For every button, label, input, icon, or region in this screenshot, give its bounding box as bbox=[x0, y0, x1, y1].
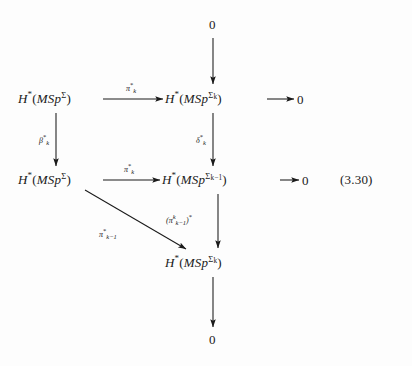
node-row2-right-msp: MSp bbox=[181, 172, 205, 187]
node-row1-right-H: H bbox=[165, 91, 175, 106]
node-row1-left-H: H bbox=[18, 91, 28, 106]
label-pi-star-k-minus-1-diagonal: π*k−1 bbox=[99, 228, 117, 241]
node-row2-right-sup-sub: k−1 bbox=[210, 174, 222, 182]
node-row3-center-sup-sub: k bbox=[213, 257, 217, 265]
node-row1-right-msp: MSp bbox=[184, 91, 208, 106]
label-pi-star-k-row2: π*k bbox=[124, 163, 134, 176]
equation-number: (3.30) bbox=[340, 172, 373, 188]
label-beta-star-k: β*k bbox=[39, 134, 49, 147]
label-pi-star-k-row2-sub: k bbox=[131, 168, 134, 175]
node-row2-right-sup: Σk−1 bbox=[205, 171, 222, 181]
node-row2-right-star: * bbox=[172, 170, 177, 180]
node-row2-right: H*(MSpΣk−1) bbox=[162, 172, 227, 186]
label-delta-star-k: δ*k bbox=[196, 134, 206, 147]
node-top-zero: 0 bbox=[209, 17, 216, 33]
node-row2-left-star: * bbox=[28, 170, 33, 180]
node-row3-center-star: * bbox=[175, 253, 180, 263]
node-row3-center-sup: Σk bbox=[208, 254, 217, 264]
node-row3-center-close: ) bbox=[217, 255, 222, 270]
label-pi-star-k-row1-sub: k bbox=[133, 87, 136, 94]
node-row2-right-zero: 0 bbox=[302, 173, 309, 189]
label-pi-pair-star: (πkk−1)* bbox=[166, 214, 192, 227]
node-row2-left-H: H bbox=[18, 172, 28, 187]
node-row1-right-sup-sub: k bbox=[213, 93, 217, 101]
node-row1-left: H*(MSpΣ) bbox=[18, 91, 71, 105]
node-row2-right-H: H bbox=[162, 172, 172, 187]
label-pi-pair-sub: k−1 bbox=[176, 219, 187, 226]
node-row1-right-close: ) bbox=[217, 91, 222, 106]
node-row3-center-H: H bbox=[165, 255, 175, 270]
label-delta-star-k-sub: k bbox=[203, 139, 206, 146]
label-pi-star-k-row1: π*k bbox=[126, 82, 136, 95]
node-row2-left-close: ) bbox=[66, 172, 71, 187]
label-pi-diag-sub: k−1 bbox=[106, 233, 117, 240]
node-bottom-zero: 0 bbox=[209, 332, 216, 348]
node-row1-left-msp: MSp bbox=[37, 91, 61, 106]
label-pi-pair-star: * bbox=[189, 213, 192, 220]
node-row1-right-sup: Σk bbox=[208, 90, 217, 100]
node-row1-left-close: ) bbox=[66, 91, 71, 106]
node-row1-right-star: * bbox=[175, 89, 180, 99]
node-row3-center-msp: MSp bbox=[184, 255, 208, 270]
commutative-diagram-figure: 0 H*(MSpΣ) H*(MSpΣk) 0 H*(MSpΣ) H*(MSpΣk… bbox=[0, 0, 412, 366]
node-row3-center: H*(MSpΣk) bbox=[165, 255, 222, 269]
node-row1-right: H*(MSpΣk) bbox=[165, 91, 222, 105]
node-row2-right-close: ) bbox=[222, 172, 227, 187]
label-beta-star-k-sub: k bbox=[46, 139, 49, 146]
node-row1-left-star: * bbox=[28, 89, 33, 99]
node-row2-left: H*(MSpΣ) bbox=[18, 172, 71, 186]
node-row1-right-zero: 0 bbox=[297, 92, 304, 108]
node-row2-left-msp: MSp bbox=[37, 172, 61, 187]
